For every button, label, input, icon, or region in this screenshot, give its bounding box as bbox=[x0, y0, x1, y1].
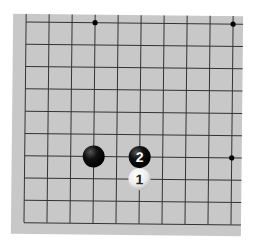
move-number-label: 2 bbox=[136, 149, 144, 165]
board-surface: 21 bbox=[11, 14, 243, 236]
go-board: 21 bbox=[0, 0, 254, 252]
move-number-label: 1 bbox=[135, 171, 143, 187]
